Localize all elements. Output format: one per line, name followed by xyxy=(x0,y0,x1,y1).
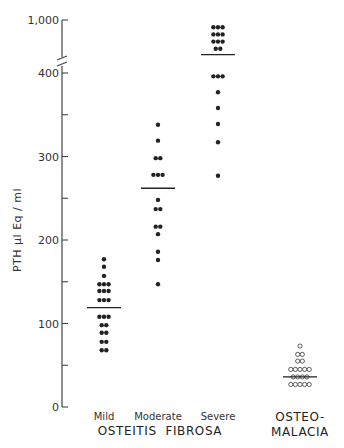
data-point-severe xyxy=(211,25,215,29)
data-point-moderate xyxy=(154,207,158,211)
data-point-mild xyxy=(100,323,104,327)
data-point-mild xyxy=(102,282,106,286)
y-tick-label-100: 100 xyxy=(38,318,59,331)
data-point-severe xyxy=(211,39,215,43)
y-tick-label-400: 400 xyxy=(38,67,59,80)
group-label-osteitis-fibrosa: OSTEITIS FIBROSA xyxy=(98,424,223,438)
data-point-mild xyxy=(102,257,106,261)
y-tick-label-1000: 1,000 xyxy=(28,14,60,27)
data-point-moderate xyxy=(154,224,158,228)
data-point-severe xyxy=(211,74,215,78)
data-point-osteomalacia xyxy=(303,382,307,386)
data-point-mild xyxy=(100,340,104,344)
data-point-moderate xyxy=(160,173,164,177)
data-point-severe xyxy=(216,32,220,36)
data-point-mild xyxy=(102,298,106,302)
data-point-mild xyxy=(104,330,108,334)
data-point-osteomalacia xyxy=(293,382,297,386)
data-point-severe xyxy=(216,25,220,29)
data-point-mild xyxy=(97,289,101,293)
data-point-moderate xyxy=(156,232,160,236)
data-point-osteomalacia xyxy=(307,382,311,386)
data-point-moderate xyxy=(158,224,162,228)
data-point-mild xyxy=(106,315,110,319)
mean-lines xyxy=(87,55,317,377)
data-point-moderate xyxy=(154,156,158,160)
category-label-moderate: Moderate xyxy=(134,411,182,422)
dot-plot-chart: 01002003004001,000 PTH µl Eq / ml Mild M… xyxy=(0,0,344,448)
data-point-osteomalacia xyxy=(300,352,304,356)
data-point-mild xyxy=(97,298,101,302)
data-point-severe xyxy=(220,25,224,29)
data-point-severe xyxy=(216,174,220,178)
data-point-osteomalacia xyxy=(289,382,293,386)
data-point-osteomalacia xyxy=(293,367,297,371)
data-point-severe xyxy=(216,39,220,43)
data-point-osteomalacia xyxy=(303,367,307,371)
y-tick-label-300: 300 xyxy=(38,151,59,164)
category-label-severe: Severe xyxy=(201,411,236,422)
data-point-osteomalacia xyxy=(298,382,302,386)
data-point-moderate xyxy=(158,207,162,211)
data-point-osteomalacia xyxy=(307,367,311,371)
data-point-osteomalacia xyxy=(298,367,302,371)
data-point-severe xyxy=(216,122,220,126)
data-point-moderate xyxy=(156,138,160,142)
data-point-moderate xyxy=(156,258,160,262)
data-point-moderate xyxy=(156,173,160,177)
data-point-moderate xyxy=(156,249,160,253)
data-point-mild xyxy=(102,274,106,278)
group-label-osteomalacia-1: OSTEO- xyxy=(275,410,325,424)
data-point-mild xyxy=(106,298,110,302)
axis-break-mark xyxy=(57,56,67,66)
data-point-osteomalacia xyxy=(300,359,304,363)
data-point-mild xyxy=(102,265,106,269)
data-point-moderate xyxy=(151,173,155,177)
data-point-mild xyxy=(97,282,101,286)
data-point-severe xyxy=(214,47,218,51)
data-point-severe xyxy=(220,39,224,43)
y-tick-label-0: 0 xyxy=(52,401,59,414)
data-point-severe xyxy=(218,47,222,51)
data-point-mild xyxy=(100,348,104,352)
category-label-mild: Mild xyxy=(94,411,115,422)
data-point-mild xyxy=(104,348,108,352)
data-point-severe xyxy=(216,90,220,94)
data-point-mild xyxy=(106,289,110,293)
data-point-mild xyxy=(102,315,106,319)
data-point-severe xyxy=(216,140,220,144)
y-axis-title: PTH µl Eq / ml xyxy=(11,188,24,272)
data-point-moderate xyxy=(158,156,162,160)
data-point-mild xyxy=(104,340,108,344)
data-points xyxy=(97,25,311,387)
data-point-osteomalacia xyxy=(289,367,293,371)
data-point-severe xyxy=(216,106,220,110)
data-point-mild xyxy=(106,282,110,286)
data-point-moderate xyxy=(156,198,160,202)
data-point-osteomalacia xyxy=(296,352,300,356)
data-point-mild xyxy=(104,323,108,327)
data-point-severe xyxy=(220,74,224,78)
data-point-osteomalacia xyxy=(296,359,300,363)
data-point-severe xyxy=(216,74,220,78)
data-point-severe xyxy=(211,32,215,36)
data-point-severe xyxy=(220,32,224,36)
data-point-moderate xyxy=(156,123,160,127)
data-point-osteomalacia xyxy=(298,344,302,348)
y-tick-label-200: 200 xyxy=(38,234,59,247)
data-point-mild xyxy=(97,315,101,319)
data-point-moderate xyxy=(156,282,160,286)
group-label-osteomalacia-2: MALACIA xyxy=(271,425,329,439)
data-point-mild xyxy=(100,330,104,334)
data-point-mild xyxy=(102,289,106,293)
